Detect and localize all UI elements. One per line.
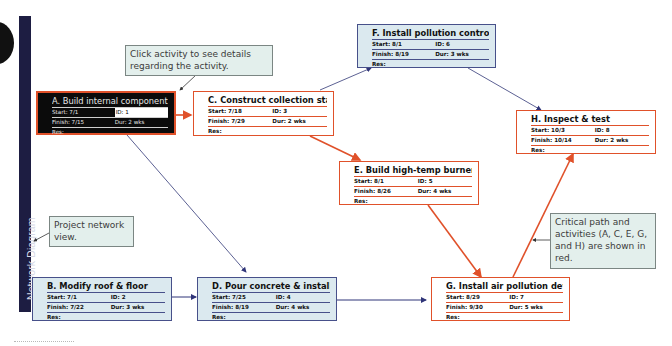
edge-f-h [468,68,541,110]
activity-node-h[interactable]: H. Inspect & test Start: 10/3ID: 8 Finis… [516,110,656,154]
activity-node-c[interactable]: C. Construct collection stack Start: 7/1… [193,91,334,136]
finish-dur-row: Finish: 7/29Dur: 2 wks [208,116,327,126]
start-id-row: Start: 7/25ID: 4 [212,292,330,302]
finish-dur-row: Finish: 10/14Dur: 2 wks [531,135,649,145]
resources-row: Res: [372,59,489,69]
activity-node-f[interactable]: F. Install pollution control s Start: 8/… [357,24,496,68]
finish-dur-row: Finish: 7/15Dur: 2 wks [52,117,168,127]
callout-pointer-network [34,233,49,241]
resources-row: Res: [354,196,472,206]
activity-title: F. Install pollution control s [372,28,489,39]
activity-title: C. Construct collection stack [208,95,327,106]
activity-node-a[interactable]: A. Build internal component: Start: 7/1I… [36,91,176,135]
activity-node-g[interactable]: G. Install air pollution device Start: 8… [431,277,570,321]
activity-title: G. Install air pollution device [446,281,563,292]
activity-title: B. Modify roof & floor [47,281,165,292]
resources-row: Res: [52,127,168,137]
activity-node-d[interactable]: D. Pour concrete & install fra Start: 7/… [197,277,337,321]
edge-e-g [428,205,481,277]
edge-c-e [310,136,360,160]
start-id-row: Start: 8/1ID: 6 [372,39,489,49]
start-id-row: Start: 7/1ID: 1 [52,107,168,117]
resources-row: Res: [446,312,563,322]
start-id-row: Start: 7/1ID: 2 [47,292,165,302]
resources-row: Res: [212,312,330,322]
activity-node-e[interactable]: E. Build high-temp burner Start: 8/1ID: … [339,161,479,205]
finish-dur-row: Finish: 8/19Dur: 4 wks [212,302,330,312]
start-id-row: Start: 8/29ID: 7 [446,292,563,302]
activity-title: H. Inspect & test [531,114,649,125]
activity-title: A. Build internal component: [52,96,168,107]
callout-critical-path: Critical path and activities (A, C, E, G… [550,213,656,269]
start-id-row: Start: 7/18ID: 3 [208,106,327,116]
resources-row: Res: [47,312,165,322]
edge-c-f [320,68,371,90]
start-id-row: Start: 8/1ID: 5 [354,176,472,186]
resources-row: Res: [208,126,327,136]
finish-dur-row: Finish: 8/26Dur: 4 wks [354,186,472,196]
finish-dur-row: Finish: 7/22Dur: 3 wks [47,302,165,312]
start-id-row: Start: 10/3ID: 8 [531,125,649,135]
callout-pointer-click [180,75,196,90]
finish-dur-row: Finish: 8/19Dur: 3 wks [372,49,489,59]
activity-title: E. Build high-temp burner [354,165,472,176]
callout-project-network: Project network view. [49,216,134,247]
resources-row: Res: [531,145,649,155]
activity-node-b[interactable]: B. Modify roof & floor Start: 7/1ID: 2 F… [32,277,172,321]
callout-click-activity: Click activity to see details regarding … [125,45,273,76]
edge-a-d [127,135,246,272]
finish-dur-row: Finish: 9/30Dur: 5 wks [446,302,563,312]
activity-title: D. Pour concrete & install fra [212,281,330,292]
